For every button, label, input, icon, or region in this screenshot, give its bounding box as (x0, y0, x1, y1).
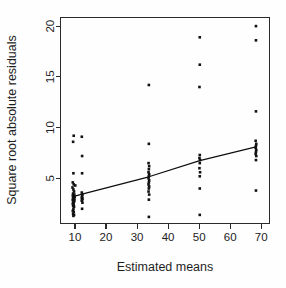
data-point (81, 135, 84, 138)
plot-frame (61, 18, 270, 224)
data-point (198, 162, 201, 165)
data-point (148, 216, 151, 219)
data-point (198, 175, 201, 178)
data-point (148, 143, 151, 146)
data-point (255, 159, 258, 162)
data-point (198, 86, 201, 89)
y-tick-label: 15 (44, 70, 56, 83)
data-point (147, 190, 150, 193)
data-point (255, 25, 258, 28)
data-point (198, 214, 201, 217)
data-point (74, 184, 77, 187)
scatter-plot-figure: 10203040506070 5101520 Estimated means S… (0, 0, 286, 288)
data-point (198, 154, 201, 157)
data-point (148, 165, 151, 168)
data-point (148, 198, 151, 201)
data-point (255, 189, 258, 192)
data-point (148, 193, 151, 196)
data-point (148, 84, 151, 87)
x-tick-label: 70 (255, 231, 268, 243)
x-tick-label: 60 (224, 231, 237, 243)
data-point (81, 155, 84, 158)
data-point (72, 134, 75, 137)
trend-line (73, 147, 256, 197)
data-point (198, 167, 201, 170)
data-point (198, 187, 201, 190)
chart-canvas: 10203040506070 5101520 Estimated means S… (0, 0, 286, 288)
data-point (148, 187, 151, 190)
data-point (255, 39, 258, 42)
data-point (81, 207, 84, 210)
plot-box-border (61, 18, 270, 224)
y-tick-label: 10 (44, 121, 56, 134)
x-tick-label: 20 (100, 231, 113, 243)
x-tick-label: 40 (162, 231, 175, 243)
data-point (255, 110, 258, 113)
data-point (72, 172, 75, 175)
data-point (198, 36, 201, 39)
data-point (72, 141, 75, 144)
x-tick-label: 10 (69, 231, 82, 243)
x-axis-title: Estimated means (117, 260, 214, 274)
data-point (198, 63, 201, 66)
y-tick-label: 5 (44, 175, 56, 181)
x-axis-ticks: 10203040506070 (69, 224, 268, 244)
data-point (81, 201, 84, 204)
x-tick-label: 30 (131, 231, 144, 243)
y-axis-ticks: 5101520 (44, 20, 61, 182)
x-tick-label: 50 (193, 231, 206, 243)
data-point (199, 171, 202, 174)
y-axis-title: Square root absolute residuals (5, 35, 19, 205)
data-point (147, 162, 150, 165)
data-point (81, 172, 84, 175)
data-point (148, 168, 151, 171)
data-point (254, 139, 257, 142)
data-point (72, 215, 75, 218)
y-tick-label: 20 (44, 20, 56, 33)
data-point (255, 155, 258, 158)
